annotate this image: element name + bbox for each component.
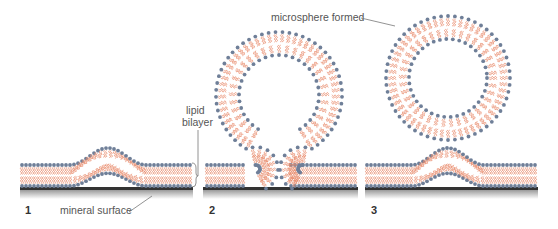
lipid-bilayer-omega xyxy=(205,30,357,190)
panel-number-2: 2 xyxy=(209,204,215,216)
lipid-bilayer-1 xyxy=(20,146,192,188)
microsphere-formed-label: microsphere formed xyxy=(271,11,365,23)
mineral-surface-shadow-2 xyxy=(203,190,358,199)
panel-number-1: 1 xyxy=(25,204,31,216)
mineral-surface-shadow-1 xyxy=(20,190,193,199)
mineral-surface-shadow-3 xyxy=(365,190,538,199)
lipid-bilayer-label-line1: lipid xyxy=(186,104,205,116)
lipid-bilayer-label-line2: bilayer xyxy=(182,116,213,128)
panel-number-3: 3 xyxy=(371,204,377,216)
microsphere-formed-leader xyxy=(361,18,395,26)
lipid-bilayer-annotation: lipid bilayer xyxy=(182,104,213,187)
lipid-microsphere-and-bilayer xyxy=(365,14,537,188)
lipid-microsphere-formation-diagram: 1 mineral surface lipid bilayer 2 3 micr… xyxy=(0,0,558,229)
panel-2: 2 xyxy=(203,30,358,216)
panel-1: 1 mineral surface xyxy=(20,146,193,216)
bilayer-bracket xyxy=(192,163,198,187)
mineral-surface-label: mineral surface xyxy=(60,204,132,216)
